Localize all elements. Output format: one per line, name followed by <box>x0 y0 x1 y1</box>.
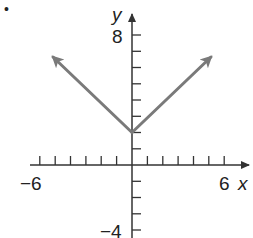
x-axis-label: x <box>237 173 249 194</box>
x-tick-label-min: −6 <box>20 173 42 194</box>
right-branch-arrow <box>132 57 211 133</box>
y-axis-label: y <box>110 4 123 25</box>
x-tick-label-max: 6 <box>219 173 230 194</box>
y-tick-label-max: 8 <box>112 26 123 47</box>
y-tick-label-min: −4 <box>100 221 122 238</box>
left-branch-arrow <box>53 57 132 133</box>
chart-canvas: • y 8 −4 −6 6 x <box>0 0 253 238</box>
bullet-marker: • <box>4 1 9 17</box>
